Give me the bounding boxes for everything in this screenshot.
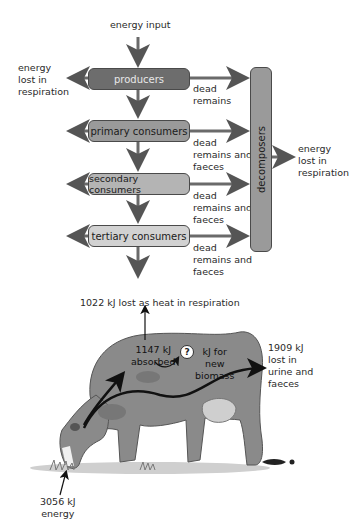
energy-lost-right-label: energy lost in respiration <box>298 143 349 179</box>
dead-remains-label-3: dead remains and faeces <box>193 190 252 226</box>
energy-intake-arrow <box>60 472 66 495</box>
dead-remains-label-2: dead remains and faeces <box>193 137 252 173</box>
unknown-value-icon: ? <box>180 345 194 359</box>
decomposers-label: decomposers <box>256 126 267 193</box>
primary-consumers-box: primary consumers <box>88 120 190 142</box>
energy-lost-left-label: energy lost in respiration <box>18 62 69 98</box>
tertiary-consumers-box: tertiary consumers <box>88 225 190 247</box>
dead-remains-label-1: dead remains <box>193 83 231 107</box>
heat-loss-label: 1022 kJ lost as heat in respiration <box>80 297 240 309</box>
absorbed-label: 1147 kJ absorbed <box>131 344 175 368</box>
energy-intake-label: 3056 kJ energy <box>40 496 76 520</box>
energy-input-label: energy input <box>110 19 171 31</box>
dead-remains-label-4: dead remains and faeces <box>193 242 252 278</box>
biomass-label: kJ for new biomass <box>195 346 234 382</box>
secondary-consumers-box: secondary consumers <box>88 173 190 195</box>
decomposers-box: decomposers <box>250 67 272 252</box>
urine-faeces-label: 1909 kJ lost in urine and faeces <box>268 342 313 390</box>
producers-box: producers <box>88 68 190 90</box>
